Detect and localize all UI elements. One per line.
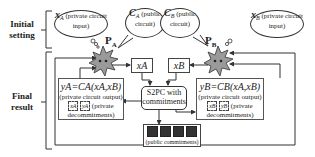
party-a-output-equation: yA=CA(xA,xB) <box>59 81 123 93</box>
commitment-icon <box>186 126 197 137</box>
party-a-output-box: yA=CA(xA,xB) (private circuit output) xA… <box>58 78 124 120</box>
commitment-icon <box>147 126 158 137</box>
party-a-input-box: xA <box>131 58 153 73</box>
party-b-star <box>204 46 233 76</box>
decommit-yb-icon: yB <box>219 101 229 111</box>
party-b-output-box: yB=CB(xA,xB) (private circuit output) xB… <box>196 78 264 120</box>
party-b-output-desc: (private circuit output) <box>197 93 263 101</box>
commitment-icons <box>144 125 200 139</box>
s2pc-box: S2PC with commitments <box>141 86 187 110</box>
party-a-output-desc: (private circuit output) <box>59 93 123 101</box>
party-b-input-box: xB <box>168 58 190 73</box>
public-commitments-box: (public commitments) <box>143 124 201 147</box>
party-b-circuit-bubble: CB (public circuit) <box>160 8 200 38</box>
party-a-star <box>89 46 118 76</box>
decommit-xb-icon: xB <box>207 101 217 111</box>
final-result-label: Final result <box>2 91 42 113</box>
party-a-input-cloud: xA (private circuit input) <box>54 10 108 38</box>
decommit-ya-icon: yA <box>80 101 90 111</box>
party-a-circuit-bubble: CA (public circuit) <box>125 8 165 38</box>
party-b-output-equation: yB=CB(xA,xB) <box>197 81 263 93</box>
party-b-decommitments: xB yB (private decommitments) <box>197 101 263 119</box>
initial-setting-label: Initial setting <box>2 19 42 41</box>
commitment-icon <box>160 126 171 137</box>
party-b-label: PB <box>205 34 216 49</box>
party-a-decommitments: xA yA (private decommitments) <box>59 101 123 119</box>
party-a-label: PA <box>105 34 117 49</box>
commitment-icon <box>173 126 184 137</box>
party-b-input-cloud: xB (private circuit input) <box>250 10 304 38</box>
decommit-xa-icon: xA <box>68 101 78 111</box>
public-commitments-label: (public commitments) <box>144 139 200 146</box>
